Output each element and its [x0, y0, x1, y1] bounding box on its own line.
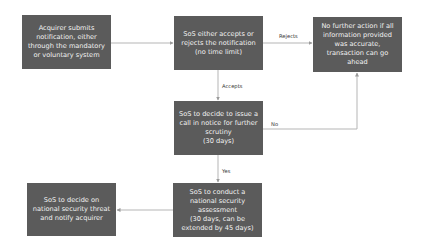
node-sos-accepts-or-rejects: SoS either accepts or rejects the notifi… [174, 16, 263, 70]
edge-label-accepts: Accepts [222, 83, 242, 89]
edge-label-rejects: Rejects [279, 33, 298, 39]
edge-label-yes: Yes [222, 168, 230, 174]
node-national-security-assessment: SoS to conduct a national security asses… [173, 183, 262, 237]
flowchart-canvas: Acquirer submits notification, either th… [0, 0, 421, 251]
node-call-in-notice-decision: SoS to decide to issue a call in notice … [174, 101, 263, 155]
node-decide-on-threat: SoS to decide on national security threa… [27, 183, 116, 236]
node-no-further-action: No further action if all information pro… [313, 17, 402, 72]
edge-label-no: No [271, 121, 278, 127]
node-acquirer-submits-notification: Acquirer submits notification, either th… [22, 15, 111, 69]
